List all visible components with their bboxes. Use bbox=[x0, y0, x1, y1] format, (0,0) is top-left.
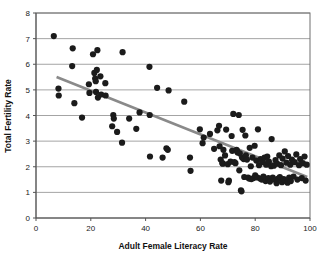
data-point bbox=[199, 140, 205, 146]
scatter-plot-figure: 012345678020406080100 Adult Female Liter… bbox=[0, 0, 331, 259]
data-point bbox=[70, 45, 76, 51]
data-point bbox=[240, 127, 246, 133]
y-tick-label-4: 4 bbox=[26, 112, 31, 121]
data-point bbox=[232, 160, 238, 166]
data-point bbox=[159, 154, 165, 160]
data-point bbox=[86, 90, 92, 96]
chart-canvas: 012345678020406080100 Adult Female Liter… bbox=[0, 0, 331, 259]
y-tick-label-3: 3 bbox=[26, 137, 31, 146]
data-point bbox=[136, 109, 142, 115]
data-point bbox=[223, 126, 229, 132]
y-axis-title: Total Fertility Rate bbox=[3, 79, 13, 153]
y-tick-label-8: 8 bbox=[26, 9, 31, 18]
y-tick-label-2: 2 bbox=[26, 163, 31, 172]
data-point bbox=[304, 162, 310, 168]
data-point bbox=[103, 92, 109, 98]
x-axis-title: Adult Female Literacy Rate bbox=[118, 241, 227, 251]
data-point bbox=[114, 129, 120, 135]
data-point bbox=[94, 67, 100, 73]
data-point bbox=[111, 115, 117, 121]
y-tick-label-5: 5 bbox=[26, 86, 31, 95]
data-point bbox=[102, 80, 108, 86]
data-point bbox=[119, 49, 125, 55]
data-point bbox=[154, 85, 160, 91]
data-point bbox=[69, 63, 75, 69]
data-point bbox=[207, 131, 213, 137]
data-point bbox=[166, 87, 172, 93]
data-point bbox=[126, 115, 132, 121]
x-tick-label-60: 60 bbox=[196, 224, 205, 233]
data-point bbox=[181, 99, 187, 105]
data-point bbox=[229, 133, 235, 139]
data-point bbox=[220, 147, 226, 153]
data-point bbox=[301, 153, 307, 159]
data-point bbox=[252, 143, 258, 149]
data-point bbox=[71, 100, 77, 106]
data-point bbox=[147, 112, 153, 118]
data-point bbox=[119, 140, 125, 146]
data-point bbox=[94, 47, 100, 53]
data-point bbox=[79, 114, 85, 120]
x-tick-label-40: 40 bbox=[141, 224, 150, 233]
data-point bbox=[211, 146, 217, 152]
data-point bbox=[97, 73, 103, 79]
data-point bbox=[222, 152, 228, 158]
data-point bbox=[248, 163, 254, 169]
data-point bbox=[56, 92, 62, 98]
data-point bbox=[216, 123, 222, 129]
data-point bbox=[242, 132, 248, 138]
data-point bbox=[236, 112, 242, 118]
y-tick-label-7: 7 bbox=[26, 35, 31, 44]
y-tick-label-0: 0 bbox=[26, 214, 31, 223]
x-tick-label-100: 100 bbox=[303, 224, 317, 233]
data-point bbox=[238, 188, 244, 194]
data-point bbox=[255, 126, 261, 132]
y-tick-label-1: 1 bbox=[26, 188, 31, 197]
data-point bbox=[303, 177, 309, 183]
data-point bbox=[226, 177, 232, 183]
data-point bbox=[269, 136, 275, 142]
x-tick-label-80: 80 bbox=[251, 224, 260, 233]
y-tick-label-6: 6 bbox=[26, 60, 31, 69]
data-point bbox=[187, 154, 193, 160]
data-point bbox=[278, 162, 284, 168]
data-point bbox=[165, 147, 171, 153]
x-tick-label-20: 20 bbox=[86, 224, 95, 233]
data-point bbox=[93, 78, 99, 84]
data-point bbox=[147, 153, 153, 159]
data-point bbox=[236, 167, 242, 173]
data-point bbox=[51, 33, 57, 39]
data-point bbox=[201, 134, 207, 140]
data-point bbox=[109, 123, 115, 129]
data-point bbox=[244, 156, 250, 162]
data-point bbox=[55, 85, 61, 91]
data-point bbox=[218, 177, 224, 183]
data-point bbox=[187, 168, 193, 174]
data-point bbox=[197, 126, 203, 132]
data-point bbox=[230, 111, 236, 117]
data-point bbox=[133, 126, 139, 132]
data-point bbox=[146, 64, 152, 70]
x-tick-label-0: 0 bbox=[34, 224, 39, 233]
data-point bbox=[86, 81, 92, 87]
